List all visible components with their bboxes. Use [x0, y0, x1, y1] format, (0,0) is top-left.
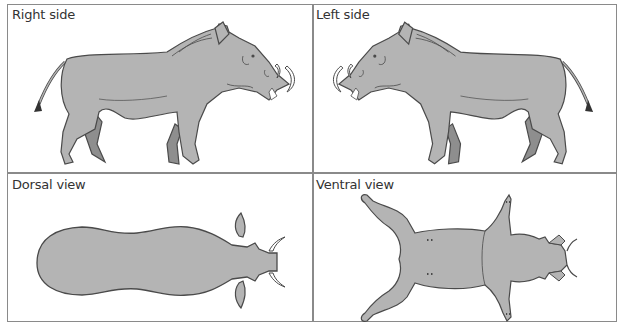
panel-ventral-view: Ventral view [313, 173, 617, 322]
panel-left-side: Left side [313, 4, 617, 172]
warthog-right-side-illustration [7, 4, 312, 172]
warthog-ventral-illustration [313, 173, 617, 322]
warthog-dorsal-illustration [7, 173, 312, 322]
warthog-left-side-illustration [313, 4, 617, 172]
panel-dorsal-view: Dorsal view [7, 173, 312, 322]
panel-right-side: Right side [7, 4, 312, 172]
